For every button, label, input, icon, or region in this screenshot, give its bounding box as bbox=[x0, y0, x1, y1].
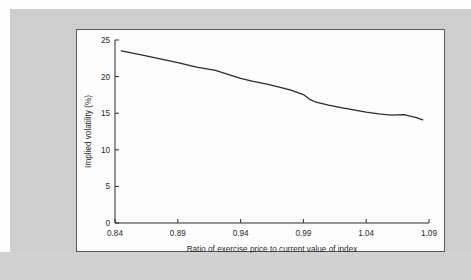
x-tick-label: 0.99 bbox=[295, 229, 311, 238]
data-series-line bbox=[121, 51, 422, 120]
figure-page: 05101520250.840.890.940.991.041.09Ratio … bbox=[0, 0, 471, 280]
x-tick-label: 0.94 bbox=[233, 229, 249, 238]
x-axis-title: Ratio of exercise price to current value… bbox=[187, 245, 358, 253]
y-tick-label: 0 bbox=[105, 219, 110, 228]
y-axis-title: Implied volatility (%) bbox=[84, 95, 93, 168]
y-tick-label: 10 bbox=[101, 146, 111, 155]
y-tick-label: 5 bbox=[105, 182, 110, 191]
y-tick-label: 20 bbox=[101, 73, 111, 82]
y-tick-label: 15 bbox=[101, 109, 111, 118]
chart-panel: 05101520250.840.890.940.991.041.09Ratio … bbox=[76, 29, 445, 252]
x-tick-label: 1.04 bbox=[358, 229, 374, 238]
x-tick-label: 1.09 bbox=[421, 229, 437, 238]
page-background-lower bbox=[0, 252, 471, 280]
x-tick-label: 0.84 bbox=[107, 229, 123, 238]
y-tick-label: 25 bbox=[101, 36, 111, 45]
volatility-skew-chart: 05101520250.840.890.940.991.041.09Ratio … bbox=[77, 30, 446, 253]
x-tick-label: 0.89 bbox=[170, 229, 186, 238]
